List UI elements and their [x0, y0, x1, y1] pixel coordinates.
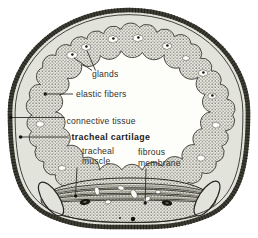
bottom-center-dot: [131, 217, 135, 221]
label-fibrous-membrane-line2: membrane: [138, 158, 181, 168]
leader-dot-fibrous-membrane: [144, 201, 147, 204]
label-connective-tissue: connective tissue: [67, 116, 136, 126]
gland-blob: [212, 122, 220, 128]
label-glands: glands: [92, 69, 119, 79]
gland-duct-dot: [211, 94, 214, 97]
trachealis-region: [41, 178, 216, 223]
gland-duct-dot: [85, 45, 88, 48]
trachea-diagram-page: glands elastic fibers connective tissue …: [0, 0, 258, 238]
leader-dot-connective-tissue: [9, 116, 12, 119]
gland-duct-dot: [166, 44, 169, 47]
label-tracheal-muscle-line2: muscle: [82, 156, 110, 166]
gland-blob: [197, 155, 205, 161]
label-tracheal-cartilage: tracheal cartilage: [72, 132, 151, 142]
gland-blob: [36, 121, 44, 127]
label-tracheal-muscle-line1: tracheal: [82, 146, 114, 156]
gland-blob: [183, 55, 190, 60]
label-fibrous-membrane-line1: fibrous: [138, 147, 165, 157]
bottom-small-dot: [119, 217, 121, 219]
trachea-cross-section-diagram: glands elastic fibers connective tissue …: [0, 0, 258, 238]
leader-dot-elastic-fibers: [44, 92, 47, 95]
gland-duct-dot: [202, 71, 205, 74]
gland-duct-dot: [71, 53, 74, 56]
membrane-white-blob: [155, 190, 160, 194]
gland-duct-dot: [137, 36, 140, 39]
leader-dot-tracheal-cartilage: [19, 135, 23, 139]
gland-blob: [58, 165, 66, 170]
leader-dot-tracheal-muscle: [74, 194, 77, 197]
gland-duct-dot: [112, 37, 115, 40]
label-elastic-fibers: elastic fibers: [76, 89, 127, 99]
